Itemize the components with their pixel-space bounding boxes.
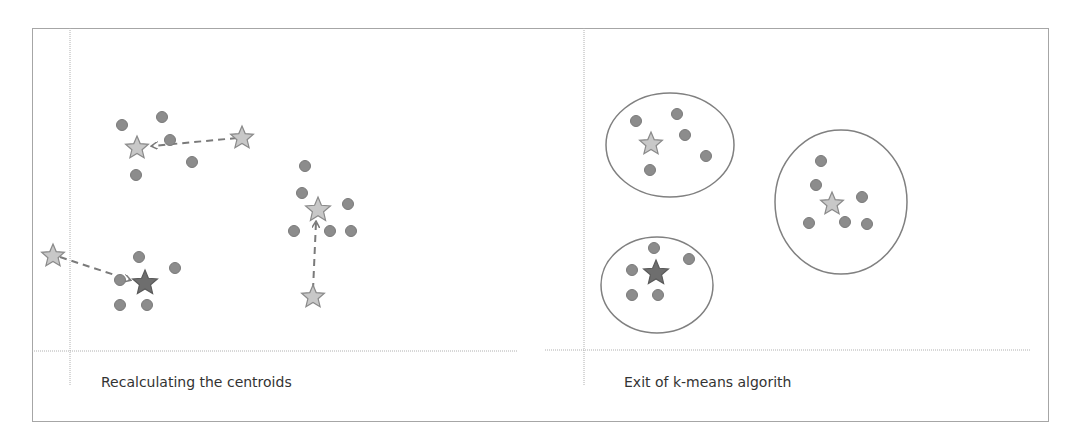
data-point <box>684 254 695 265</box>
data-point <box>862 219 873 230</box>
data-point <box>672 109 683 120</box>
cluster-boundary <box>606 93 734 197</box>
data-point <box>187 157 198 168</box>
panel-exit-kmeans <box>545 28 1030 385</box>
data-point <box>131 170 142 181</box>
centroid-star-icon <box>306 197 331 221</box>
data-point <box>627 290 638 301</box>
centroid-star-icon <box>821 192 844 214</box>
data-point <box>653 290 664 301</box>
data-point <box>627 265 638 276</box>
data-point <box>300 161 311 172</box>
caption-recalculating: Recalculating the centroids <box>101 374 292 390</box>
data-point <box>680 130 691 141</box>
caption-exit: Exit of k-means algorith <box>624 374 791 390</box>
data-point <box>804 218 815 229</box>
data-point <box>289 226 300 237</box>
data-point <box>840 217 851 228</box>
data-point <box>297 188 308 199</box>
centroid-star-icon <box>302 285 325 307</box>
data-point <box>170 263 181 274</box>
data-point <box>343 199 354 210</box>
panel-recalculating-centroids <box>32 28 517 385</box>
centroid-star-icon <box>644 260 669 284</box>
data-point <box>811 180 822 191</box>
data-point <box>134 252 145 263</box>
centroid-star-icon <box>231 126 254 148</box>
centroid-star-icon <box>42 244 65 266</box>
data-point <box>346 226 357 237</box>
data-point <box>142 300 153 311</box>
centroid-star-icon <box>126 136 149 158</box>
data-point <box>645 165 656 176</box>
data-point <box>325 226 336 237</box>
data-point <box>115 300 126 311</box>
centroid-star-icon <box>133 270 158 294</box>
data-point <box>649 243 660 254</box>
data-point <box>157 112 168 123</box>
data-point <box>165 135 176 146</box>
data-point <box>117 120 128 131</box>
centroid-move-arrow <box>313 222 316 290</box>
centroid-star-icon <box>640 132 663 154</box>
data-point <box>701 151 712 162</box>
data-point <box>857 192 868 203</box>
data-point <box>115 275 126 286</box>
data-point <box>816 156 827 167</box>
data-point <box>631 116 642 127</box>
